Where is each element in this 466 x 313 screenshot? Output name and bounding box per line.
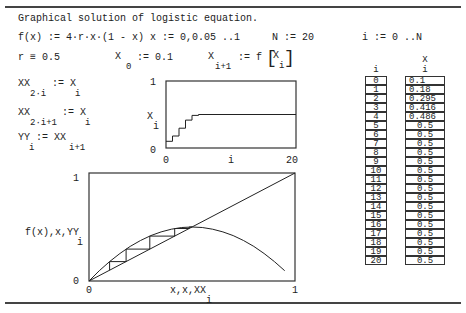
index-cell: 16 [365, 220, 387, 229]
value-cell: 0.5 [405, 148, 445, 157]
y-tick-1: 1 [73, 173, 79, 184]
value-header-sub: i [405, 66, 445, 75]
value-cell: 0.18 [405, 85, 445, 94]
y-axis-label: f(x),x,YY [25, 227, 79, 238]
value-cell: 0.5 [405, 121, 445, 130]
value-cell: 0.5 [405, 139, 445, 148]
index-cell: 4 [365, 112, 387, 121]
value-cell: 0.5 [405, 238, 445, 247]
y-tick-0: 0 [73, 276, 79, 287]
value-column: 0.10.180.2950.4160.4860.50.50.50.50.50.5… [405, 76, 445, 265]
x-axis-label: x,x,XX [170, 285, 206, 296]
value-cell: 0.5 [405, 184, 445, 193]
x-tick-1: 1 [292, 285, 298, 296]
index-cell: 17 [365, 229, 387, 238]
index-column: 01234567891011121314151617181920 [365, 76, 387, 265]
value-cell: 0.5 [405, 247, 445, 256]
index-cell: 10 [365, 166, 387, 175]
value-cell: 0.5 [405, 166, 445, 175]
index-header: i [365, 66, 387, 75]
index-cell: 20 [365, 256, 387, 265]
index-cell: 9 [365, 157, 387, 166]
index-cell: 13 [365, 193, 387, 202]
index-cell: 15 [365, 211, 387, 220]
svg-text:i: i [206, 295, 212, 306]
value-cell: 0.5 [405, 202, 445, 211]
x-tick-0: 0 [86, 285, 92, 296]
index-cell: 3 [365, 103, 387, 112]
index-cell: 2 [365, 94, 387, 103]
value-cell: 0.5 [405, 130, 445, 139]
index-cell: 19 [365, 247, 387, 256]
index-cell: 6 [365, 130, 387, 139]
index-cell: 5 [365, 121, 387, 130]
value-cell: 0.5 [405, 175, 445, 184]
index-cell: 0 [365, 76, 387, 85]
index-cell: 12 [365, 184, 387, 193]
value-cell: 0.5 [405, 157, 445, 166]
index-cell: 14 [365, 202, 387, 211]
value-cell: 0.486 [405, 112, 445, 121]
value-cell: 0.1 [405, 76, 445, 85]
value-cell: 0.5 [405, 211, 445, 220]
f-curve [89, 227, 285, 281]
index-cell: 7 [365, 139, 387, 148]
cobweb-chart: 1 0 f(x),x,YY i 0 x,x,XX i 1 [0, 0, 466, 313]
index-cell: 18 [365, 238, 387, 247]
value-header: X [405, 56, 445, 65]
value-cell: 0.5 [405, 256, 445, 265]
index-cell: 1 [365, 85, 387, 94]
value-cell: 0.5 [405, 193, 445, 202]
svg-text:i: i [77, 237, 83, 248]
value-cell: 0.416 [405, 103, 445, 112]
value-cell: 0.5 [405, 229, 445, 238]
value-cell: 0.295 [405, 94, 445, 103]
value-cell: 0.5 [405, 220, 445, 229]
index-cell: 8 [365, 148, 387, 157]
index-cell: 11 [365, 175, 387, 184]
